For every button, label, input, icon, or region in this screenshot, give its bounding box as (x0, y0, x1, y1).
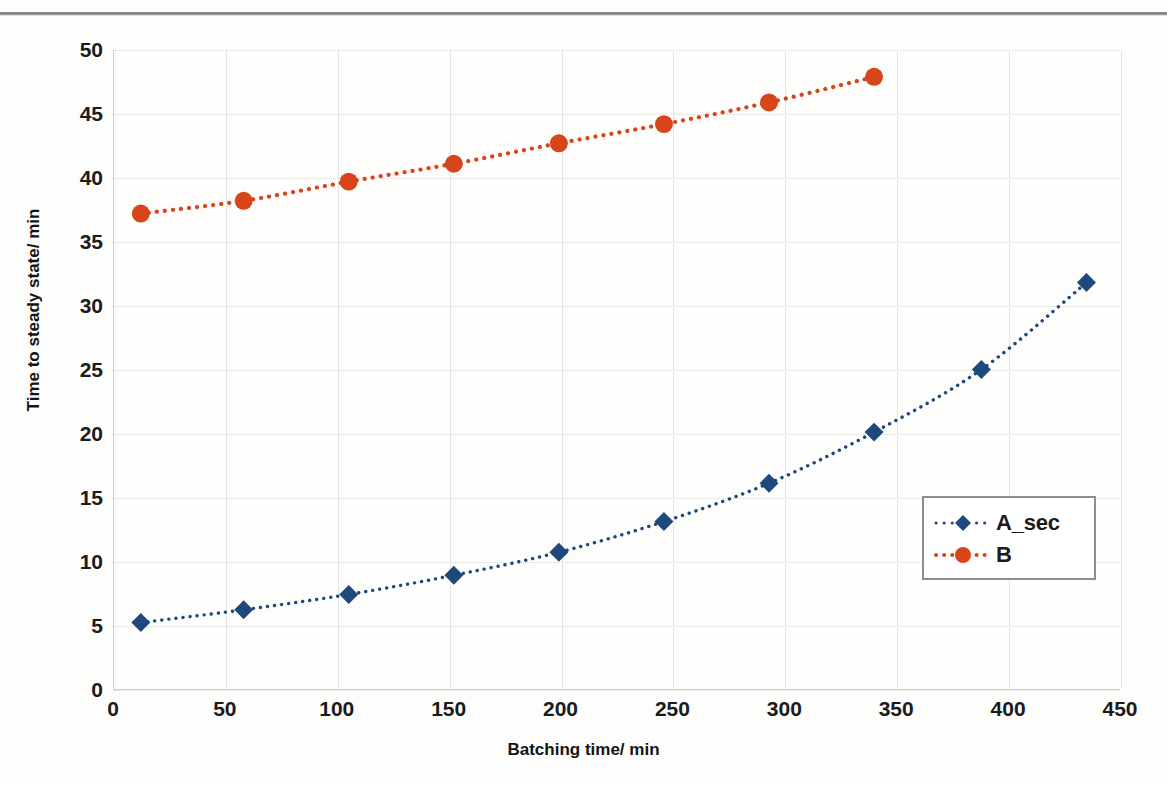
y-axis-tick-label: 45 (55, 102, 103, 126)
data-series-layer (114, 50, 1120, 689)
data-point-marker (955, 547, 971, 563)
series-b (132, 68, 883, 223)
legend-swatch-graphic (934, 514, 992, 532)
y-axis-tick-label: 25 (55, 358, 103, 382)
x-axis-tick-label: 150 (414, 697, 484, 721)
y-axis-tick-label: 5 (55, 614, 103, 638)
chart-legend: A_sec B (922, 496, 1096, 580)
data-point-marker (972, 360, 991, 379)
data-point-marker (339, 585, 358, 604)
legend-entry-b: B (924, 539, 1094, 571)
y-axis-tick-label: 30 (55, 294, 103, 318)
gridline-vertical (1121, 50, 1122, 689)
legend-swatch-graphic (934, 546, 992, 564)
y-axis-tick-label: 10 (55, 550, 103, 574)
legend-marker-b (934, 546, 992, 564)
chart-page: Time to steady state/ min Batching time/… (0, 0, 1167, 785)
data-point-marker (655, 115, 673, 133)
x-axis-tick-label: 250 (637, 697, 707, 721)
data-point-marker (760, 474, 779, 493)
data-point-marker (131, 613, 150, 632)
x-axis-tick-label: 450 (1085, 697, 1155, 721)
y-axis-tick-label: 50 (55, 38, 103, 62)
data-point-marker (549, 543, 568, 562)
y-axis-tick-label: 35 (55, 230, 103, 254)
gridline-horizontal (114, 690, 1120, 691)
legend-marker-a-sec (934, 514, 992, 532)
data-point-marker (865, 423, 884, 442)
data-point-marker (340, 173, 358, 191)
x-axis-tick-label: 100 (302, 697, 372, 721)
y-axis-tick-label: 20 (55, 422, 103, 446)
x-axis-tick-label: 300 (749, 697, 819, 721)
y-axis-tick-label: 15 (55, 486, 103, 510)
legend-entry-a-sec: A_sec (924, 507, 1094, 539)
x-axis-tick-label: 0 (78, 697, 148, 721)
data-point-marker (235, 192, 253, 210)
data-point-marker (760, 93, 778, 111)
y-axis-title: Time to steady state/ min (24, 100, 44, 520)
x-axis-title: Batching time/ min (0, 740, 1167, 760)
data-point-marker (132, 205, 150, 223)
data-point-marker (654, 512, 673, 531)
plot-area (113, 50, 1120, 690)
x-axis-tick-label: 50 (190, 697, 260, 721)
y-axis-tick-label: 40 (55, 166, 103, 190)
data-point-marker (444, 566, 463, 585)
legend-label-b: B (996, 542, 1012, 568)
scan-artifact-line-secondary (0, 15, 1167, 16)
data-point-marker (865, 68, 883, 86)
legend-label-a-sec: A_sec (996, 510, 1060, 536)
data-point-marker (445, 155, 463, 173)
data-point-marker (234, 600, 253, 619)
x-axis-tick-label: 350 (861, 697, 931, 721)
data-point-marker (550, 134, 568, 152)
x-axis-tick-label: 200 (526, 697, 596, 721)
data-point-marker (955, 515, 971, 531)
x-axis-tick-label: 400 (973, 697, 1043, 721)
